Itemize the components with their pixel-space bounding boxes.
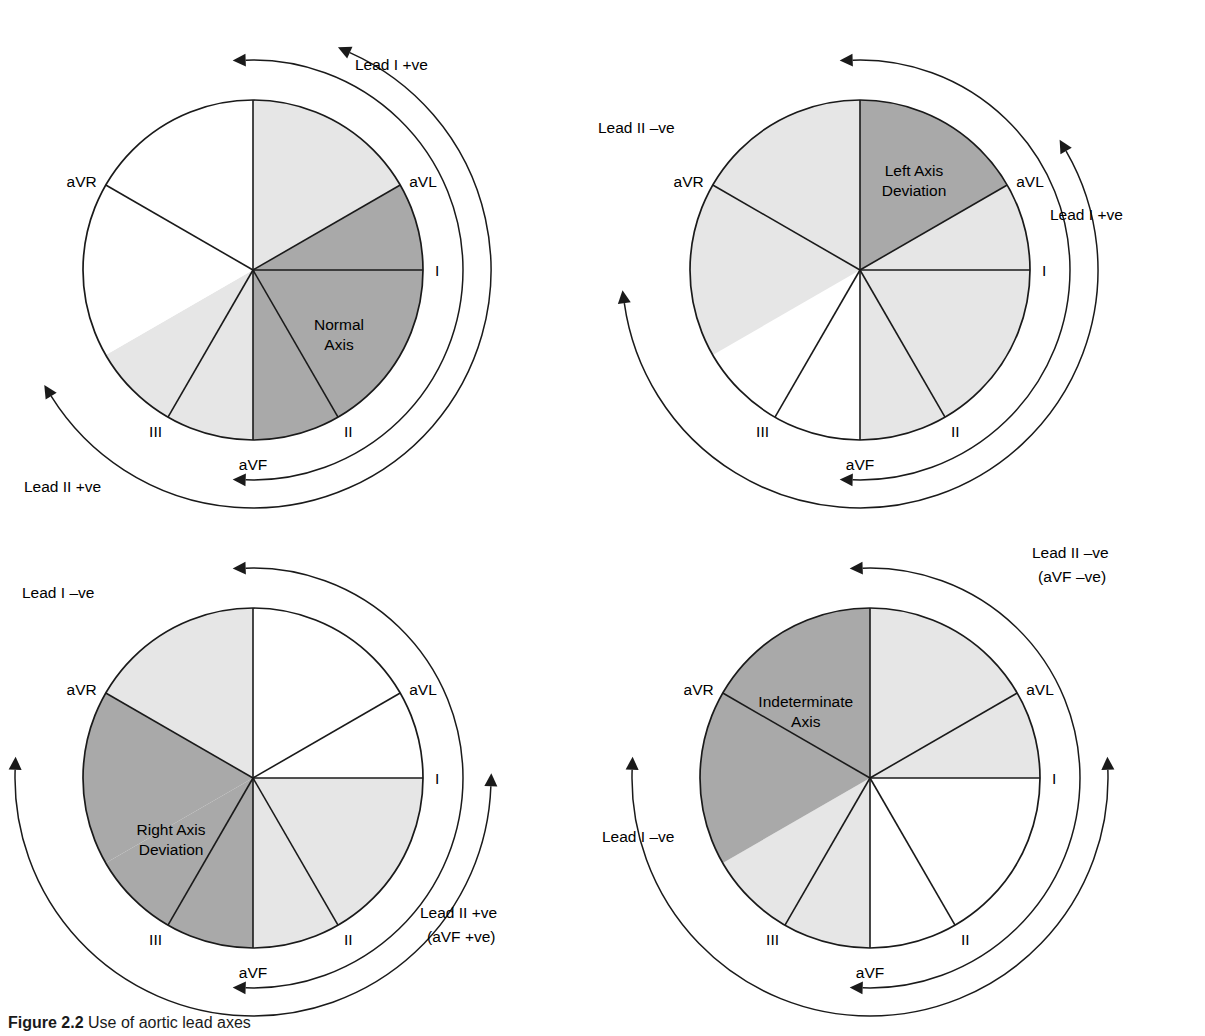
arrowhead-icon — [1060, 140, 1072, 155]
lead-label-aVF: aVF — [856, 964, 884, 981]
arrowhead-icon — [44, 385, 56, 399]
lead-label-aVF: aVF — [846, 456, 874, 473]
lead-label-aVL: aVL — [409, 681, 437, 698]
arrowhead-icon — [233, 473, 246, 486]
figure-caption: Figure 2.2 Use of aortic lead axes — [8, 1014, 251, 1032]
arc-label-lead-2-negative: Lead II –ve — [1032, 544, 1109, 561]
arrowhead-icon — [1101, 757, 1114, 770]
zone-label-line: Normal — [314, 316, 364, 333]
arrowhead-icon — [850, 562, 863, 575]
hexaxial-diagram-indeterminate-axis: IIIIIIaVFaVLaVRIndeterminateAxisLead II … — [580, 520, 1180, 1020]
lead-label-II: II — [951, 423, 960, 440]
zone-label-line: Deviation — [139, 841, 204, 858]
lead-label-III: III — [149, 423, 162, 440]
arrowhead-icon — [233, 562, 246, 575]
hexaxial-diagram-normal-axis: IIIIIIaVFaVLaVRNormalAxisLead I +veLead … — [0, 8, 560, 523]
arc-label-lead-2-positive-sub: (aVF +ve) — [427, 928, 495, 945]
lead-label-III: III — [766, 931, 779, 948]
lead-label-aVF: aVF — [239, 456, 267, 473]
lead-label-aVR: aVR — [674, 173, 704, 190]
zone-label-line: Indeterminate — [758, 693, 853, 710]
lead-label-II: II — [344, 931, 353, 948]
arc-label-lead-1-positive: Lead I +ve — [1050, 206, 1123, 223]
arrowhead-icon — [484, 773, 497, 786]
lead-label-I: I — [435, 770, 439, 787]
arrowhead-icon — [233, 981, 246, 994]
zone-label-line: Axis — [791, 713, 821, 730]
arrowhead-icon — [233, 54, 246, 67]
figure-caption-number: Figure 2.2 — [8, 1014, 84, 1031]
arc-label-lead-2-positive: Lead II +ve — [24, 478, 101, 495]
lead-label-aVR: aVR — [67, 173, 97, 190]
arc-label-lead-1-negative: Lead I –ve — [602, 828, 674, 845]
lead-label-I: I — [435, 262, 439, 279]
lead-label-I: I — [1052, 770, 1056, 787]
arrowhead-icon — [626, 757, 639, 770]
lead-label-aVL: aVL — [1026, 681, 1054, 698]
lead-label-II: II — [344, 423, 353, 440]
arc-label-lead-2-negative-sub: (aVF –ve) — [1038, 568, 1106, 585]
zone-label-line: Deviation — [882, 182, 947, 199]
zone-label-line: Left Axis — [885, 162, 944, 179]
lead-label-aVR: aVR — [684, 681, 714, 698]
lead-label-III: III — [149, 931, 162, 948]
arrowhead-icon — [840, 54, 853, 67]
lead-label-I: I — [1042, 262, 1046, 279]
arrowhead-icon — [850, 981, 863, 994]
zone-label-line: Axis — [324, 336, 354, 353]
arrowhead-icon — [618, 290, 631, 304]
lead-label-II: II — [961, 931, 970, 948]
arc-label-lead-2-negative: Lead II –ve — [598, 119, 675, 136]
arc-label-lead-1-negative: Lead I –ve — [22, 584, 94, 601]
lead-label-aVF: aVF — [239, 964, 267, 981]
arrowhead-icon — [840, 473, 853, 486]
arc-label-lead-1-positive: Lead I +ve — [355, 56, 428, 73]
hexaxial-diagram-left-axis-deviation: IIIIIIaVFaVLaVRLeft AxisDeviationLead II… — [580, 8, 1180, 523]
lead-label-aVR: aVR — [67, 681, 97, 698]
zone-label-line: Right Axis — [137, 821, 206, 838]
lead-label-aVL: aVL — [1016, 173, 1044, 190]
lead-label-III: III — [756, 423, 769, 440]
arc-label-lead-2-positive: Lead II +ve — [420, 904, 497, 921]
figure-caption-text: Use of aortic lead axes — [88, 1014, 251, 1031]
lead-label-aVL: aVL — [409, 173, 437, 190]
arrowhead-icon — [9, 757, 22, 770]
hexaxial-diagram-right-axis-deviation: IIIIIIaVFaVLaVRRight AxisDeviationLead I… — [0, 520, 560, 1020]
